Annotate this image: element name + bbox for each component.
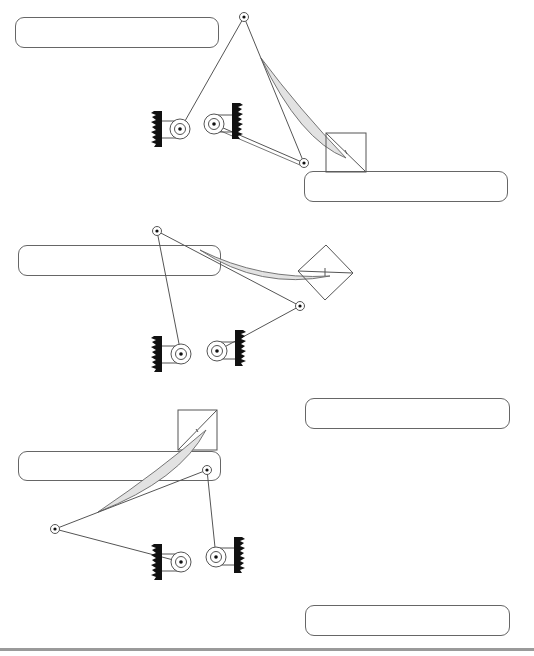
joint-pin [300,159,309,168]
pulley-left [171,344,191,364]
joint-pin [296,302,305,311]
blade-shape [261,58,346,158]
figure-3 [51,410,246,580]
mechanism-diagram [0,0,534,656]
figure-2 [151,227,353,373]
pulley-right [204,114,224,134]
pulley-left [171,552,191,572]
blade-shape [200,250,330,280]
pivot-pin [240,13,249,22]
blade-shape [98,430,206,512]
pivot-pin [51,525,60,534]
pulley-left [170,119,190,139]
pulley-right [207,341,227,361]
joint-pin [203,466,212,475]
pivot-pin [153,227,162,236]
figure-1 [151,13,366,173]
bottom-divider [0,648,534,651]
pulley-right [206,547,226,567]
